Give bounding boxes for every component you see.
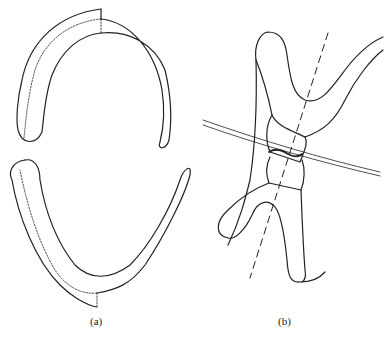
lower-incisor — [218, 157, 325, 282]
panel-a-label: (a) — [90, 315, 102, 327]
panel-b-label: (b) — [278, 315, 291, 327]
figure-canvas — [0, 0, 387, 337]
lower-arch-outline — [11, 160, 191, 307]
upper-arch-outline — [17, 9, 171, 148]
upper-incisor — [228, 32, 383, 245]
